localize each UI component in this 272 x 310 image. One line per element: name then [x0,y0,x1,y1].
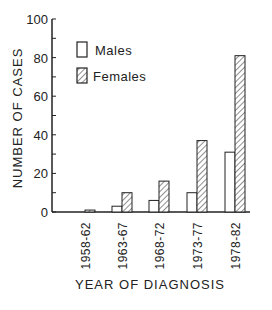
y-tick-label: 80 [34,51,48,66]
bar-males [112,206,122,212]
x-axis-title: YEAR OF DIAGNOSIS [75,277,225,292]
legend: MalesFemales [77,42,146,84]
bar-males [225,152,235,212]
legend-label-females: Females [93,69,146,84]
y-tick-label: 60 [34,89,48,104]
bar-females [122,193,132,212]
y-tick-label: 40 [34,128,48,143]
bar-chart: 0204060801001958-621963-671968-721973-77… [0,0,272,310]
bar-females [85,210,95,212]
y-tick-label: 0 [41,205,48,220]
x-category-label: 1973-77 [191,222,205,270]
legend-swatch-males [77,42,87,57]
y-tick-label: 100 [26,12,48,27]
bar-females [159,181,169,212]
x-category-label: 1978-82 [229,222,243,270]
x-category-label: 1958-62 [79,222,93,270]
bar-males [187,193,197,212]
y-tick-label: 20 [34,166,48,181]
bar-males [149,200,159,212]
bar-females [197,141,207,212]
x-category-label: 1963-67 [116,222,130,270]
bar-females [235,56,245,212]
y-axis-title: NUMBER OF CASES [10,48,25,189]
x-category-label: 1968-72 [153,222,167,270]
legend-swatch-females [77,68,87,83]
legend-label-males: Males [95,43,132,58]
